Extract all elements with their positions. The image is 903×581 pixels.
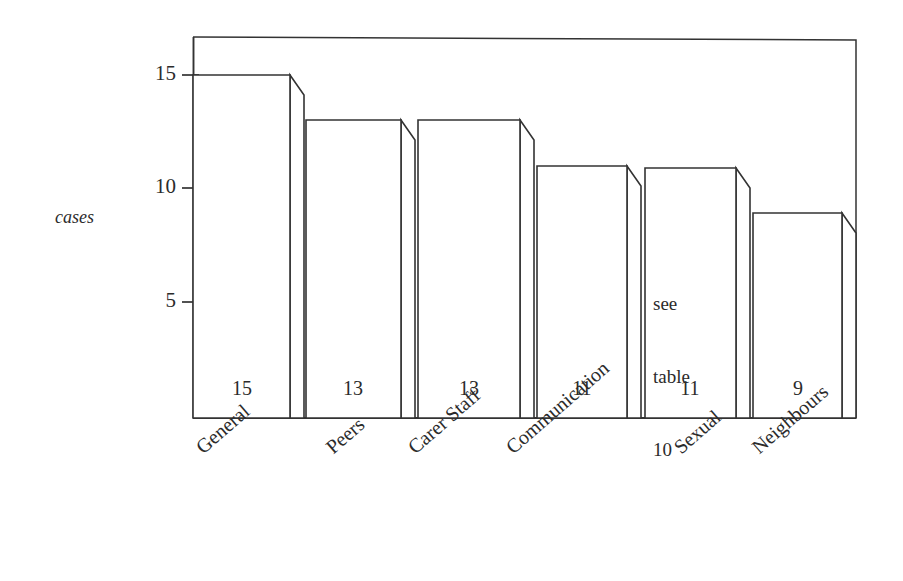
bar-annotation-see-table: see table 10 (653, 243, 743, 510)
bar-front-face-1 (193, 75, 290, 418)
bar-chart: cases 15 10 5 15 13 13 11 11 9 see table… (0, 0, 903, 581)
y-tick-label-15: 15 (128, 63, 176, 84)
bar-value-general: 15 (217, 378, 267, 398)
annotation-line-2: table (653, 365, 743, 389)
bar-side-face-2 (401, 120, 415, 418)
y-tick-label-10: 10 (128, 176, 176, 197)
y-tick-label-5: 5 (128, 290, 176, 311)
bar-side-face-3 (520, 120, 534, 418)
bar-front-face-2 (306, 120, 401, 418)
bar-front-face-3 (418, 120, 520, 418)
bar-side-face-4 (627, 166, 641, 418)
y-axis-title: cases (55, 208, 94, 226)
bar-side-face-6 (842, 213, 856, 418)
bar-side-face-1 (290, 75, 304, 418)
annotation-line-1: see (653, 292, 743, 316)
bar-value-peers: 13 (328, 378, 378, 398)
